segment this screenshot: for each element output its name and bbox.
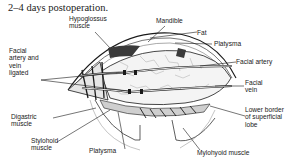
anatomical-diagram: 2–4 days postoperation. [0, 0, 305, 164]
label-facial-artery: Facial artery [236, 58, 272, 65]
label-facial-vein: Facial vein [245, 79, 263, 94]
label-fat: Fat [197, 29, 207, 36]
label-mylohyoid-muscle: Mylohyoid muscle [197, 149, 249, 156]
label-hypoglossus-muscle: Hypoglossus muscle [69, 15, 107, 30]
label-stylohoid-muscle: Stylohoid muscle [31, 137, 58, 152]
label-lower-border-superficial-lobe: Lower border of superficial lobe [245, 106, 284, 128]
label-mandible: Mandible [156, 17, 183, 24]
label-platysma-top: Platysma [214, 40, 241, 47]
label-digastric-muscle: Digastric muscle [11, 113, 37, 128]
label-facial-artery-vein-ligated: Facial artery and vein ligated [9, 47, 39, 77]
label-platysma-bottom: Platysma [89, 147, 116, 154]
